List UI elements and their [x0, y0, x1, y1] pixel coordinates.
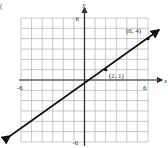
point-label-2-1: (2, 1): [109, 72, 125, 80]
point-2-1: [104, 68, 107, 71]
y-tick-min: -6: [73, 139, 79, 147]
y-axis-label: y: [82, 1, 87, 9]
x-tick-max: 6: [143, 84, 147, 92]
y-tick-max: 6: [76, 15, 80, 23]
coordinate-plane: x y -6 6 6 -6 (2, 1) (6, 4): [0, 0, 168, 148]
point-label-6-4: (6, 4): [126, 27, 142, 35]
x-tick-min: -6: [17, 84, 23, 92]
x-axis-label: x: [163, 77, 168, 85]
point-6-4: [146, 37, 149, 40]
